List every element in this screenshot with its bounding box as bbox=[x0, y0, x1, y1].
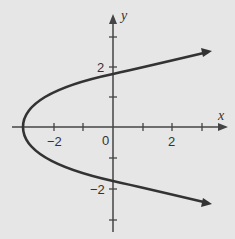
y-tick-label-2: 2 bbox=[97, 60, 104, 75]
x-tick-label-neg2: −2 bbox=[47, 134, 62, 149]
y-tick-label-neg2: −2 bbox=[90, 182, 105, 197]
curve-arrow-top-icon bbox=[201, 48, 212, 57]
y-axis-label: y bbox=[119, 8, 128, 23]
curve-arrow-bottom-icon bbox=[201, 198, 212, 207]
y-axis bbox=[109, 14, 117, 232]
x-axis bbox=[12, 123, 228, 131]
x-axis-arrow-icon bbox=[218, 123, 228, 131]
x-tick-label-2: 2 bbox=[168, 134, 175, 149]
origin-label: 0 bbox=[102, 133, 109, 148]
y-axis-arrow-icon bbox=[109, 14, 117, 24]
x-axis-label: x bbox=[217, 108, 225, 123]
parabola-chart: y x −2 0 2 2 −2 bbox=[0, 0, 235, 239]
